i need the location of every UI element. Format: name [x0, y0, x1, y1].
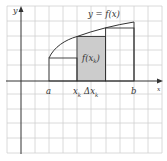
riemann-sum-diagram: y x y = f(x) f(xk) a xk Δxk b	[0, 0, 167, 161]
tick-label-a: a	[46, 86, 51, 96]
tick-label-b: b	[131, 86, 136, 96]
height-label: f(xk)	[81, 53, 100, 64]
axes	[6, 9, 160, 154]
tick-label-xk: xk	[73, 86, 82, 98]
y-axis-label: y	[12, 6, 18, 15]
y-axis-arrow-icon	[19, 6, 24, 12]
x-axis-label: x	[157, 85, 161, 92]
curve-label: y = f(x)	[87, 9, 120, 19]
